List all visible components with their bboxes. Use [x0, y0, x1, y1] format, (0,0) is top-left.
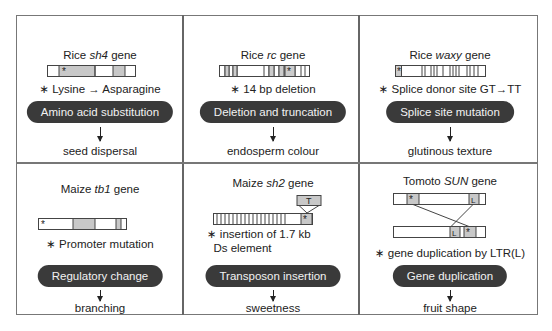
- trait-label: sweetness: [185, 302, 361, 314]
- panel-maize-sh2: Maize sh2 gene T * ∗ insertion of 1.7 kb…: [185, 163, 361, 315]
- asterisk-icon: ∗: [39, 83, 49, 95]
- arrow-down-icon: [273, 290, 274, 301]
- gene-title: Maize sh2 gene: [185, 177, 361, 189]
- asterisk-icon: ∗: [46, 238, 56, 250]
- trait-label: endosperm colour: [185, 145, 361, 157]
- gene-structure-diagram: *: [219, 65, 311, 77]
- trait-label: glutinous texture: [362, 145, 538, 157]
- arrow-down-icon: [450, 127, 451, 141]
- panel-tomato-sun: Tomoto SUN gene * L L * ∗ gene duplicati…: [362, 163, 538, 315]
- mechanism-badge: Gene duplication: [393, 265, 507, 287]
- asterisk-icon: ∗: [375, 247, 385, 259]
- arrow-down-icon: [100, 290, 101, 301]
- trait-label: seed dispersal: [12, 145, 188, 157]
- svg-text:*: *: [62, 66, 66, 77]
- gene-title: Rice sh4 gene: [12, 49, 188, 61]
- mutation-note: ∗ Splice donor site GT→TT: [362, 82, 538, 96]
- svg-text:*: *: [409, 194, 413, 205]
- mechanism-badge: Amino acid substitution: [27, 101, 173, 123]
- mutation-note: ∗ Lysine → Asparagine: [12, 82, 188, 96]
- svg-text:*: *: [466, 227, 470, 238]
- svg-text:*: *: [287, 66, 291, 77]
- asterisk-icon: ∗: [230, 83, 240, 95]
- gene-structure-diagram: T *: [213, 195, 323, 225]
- mutation-note: ∗ gene duplication by LTR(L): [362, 246, 538, 260]
- svg-text:*: *: [397, 66, 401, 77]
- trait-label: branching: [12, 302, 188, 314]
- asterisk-icon: ∗: [379, 83, 389, 95]
- svg-text:*: *: [41, 219, 45, 230]
- mechanism-badge: Transposon insertion: [206, 265, 341, 287]
- panel-rice-waxy: Rice waxy gene * ∗ Splice donor site GT→…: [362, 15, 538, 162]
- mechanism-badge: Regulatory change: [38, 265, 163, 287]
- arrow-down-icon: [100, 127, 101, 141]
- gene-title: Tomoto SUN gene: [362, 175, 538, 187]
- trait-label: fruit shape: [362, 302, 538, 314]
- panel-rice-sh4: Rice sh4 gene * ∗ Lysine → Asparagine Am…: [12, 15, 188, 162]
- mutation-note: ∗ 14 bp deletion: [185, 82, 361, 96]
- gene-structure-diagram: *: [38, 218, 128, 230]
- mutation-note: ∗ insertion of 1.7 kb Ds element: [207, 227, 361, 255]
- panel-rice-rc: Rice rc gene * ∗ 14 bp deletion Deletion…: [185, 15, 361, 162]
- arrow-down-icon: [273, 127, 274, 141]
- gene-title: Maize tb1 gene: [12, 183, 188, 195]
- svg-text:L: L: [452, 229, 457, 238]
- mechanism-badge: Deletion and truncation: [200, 101, 346, 123]
- svg-text:L: L: [471, 196, 476, 205]
- arrow-down-icon: [450, 290, 451, 301]
- gene-structure-diagram: *: [395, 65, 487, 77]
- mutation-note: ∗ Promoter mutation: [12, 237, 188, 251]
- asterisk-icon: ∗: [207, 228, 217, 240]
- mechanism-badge: Splice site mutation: [386, 101, 514, 123]
- gene-structure-diagram: *: [47, 65, 137, 77]
- gene-title: Rice rc gene: [185, 49, 361, 61]
- svg-text:*: *: [303, 214, 307, 225]
- gene-title: Rice waxy gene: [362, 49, 538, 61]
- gene-duplication-diagram: * L L *: [393, 193, 488, 243]
- svg-text:T: T: [306, 196, 312, 206]
- panel-maize-tb1: Maize tb1 gene * ∗ Promoter mutation Reg…: [12, 163, 188, 315]
